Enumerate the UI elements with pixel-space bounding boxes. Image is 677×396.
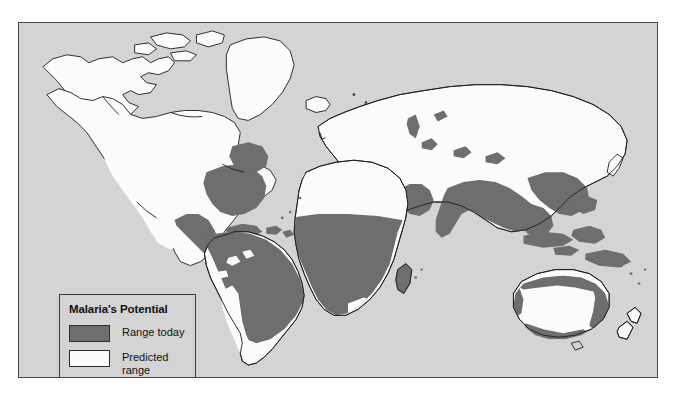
map-legend: Malaria's Potential Range today Predicte… [59, 294, 196, 378]
legend-swatch-range-today [69, 325, 110, 342]
legend-label-range-today: Range today [122, 325, 184, 339]
legend-title: Malaria's Potential [69, 303, 168, 315]
legend-label-predicted-range: Predicted range in 2046 [122, 350, 195, 378]
iceland-land [306, 97, 330, 113]
legend-swatch-predicted-range [69, 350, 110, 367]
world-map-figure: Malaria's Potential Range today Predicte… [18, 22, 658, 378]
legend-item-predicted-range: Predicted range in 2046 [69, 350, 195, 378]
legend-item-range-today: Range today [69, 325, 184, 342]
